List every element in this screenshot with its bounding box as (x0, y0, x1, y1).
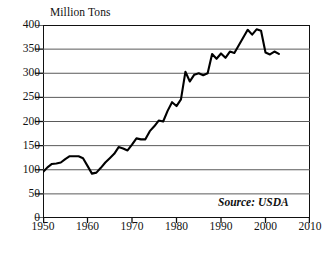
source-attribution: Source: USDA (218, 196, 289, 208)
data-series-group (43, 29, 279, 173)
plot-canvas (43, 25, 310, 218)
y-axis-unit-label: Million Tons (50, 6, 111, 18)
gridlines (43, 49, 310, 194)
line-chart-figure: Million Tons 400350300250200150100500 19… (0, 0, 334, 255)
y-tick-marks (35, 25, 43, 218)
data-line-production (43, 29, 279, 173)
x-tick-marks (43, 217, 310, 224)
